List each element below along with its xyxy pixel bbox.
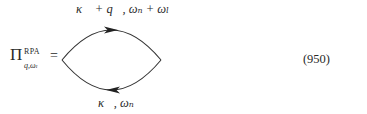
equation-number: (950): [303, 52, 330, 67]
top-propagator-line: [62, 30, 161, 60]
bottom-propagator-line: [62, 60, 161, 90]
top-propagator-label: κ⃗ + q⃗, ωₙ + ωₗ: [76, 1, 169, 17]
bottom-propagator-label: κ⃗, ωₙ: [98, 95, 134, 111]
